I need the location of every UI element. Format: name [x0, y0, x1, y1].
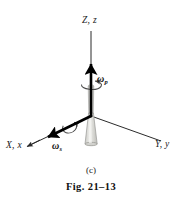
spin-vector-shaft — [48, 116, 91, 137]
omega-subscript-s: s — [59, 145, 62, 152]
spin-vector-label: ωs — [52, 140, 62, 151]
axis-line-y — [91, 116, 161, 141]
spin-vector — [48, 116, 91, 137]
axis-arrow-x — [27, 140, 40, 147]
axis-label-x: X, x — [6, 140, 22, 150]
axis-label-z: Z, z — [82, 15, 97, 25]
figure-number-caption: Fig. 21–13 — [0, 181, 182, 192]
axis-label-y: Y, y — [155, 139, 170, 149]
origin-point — [90, 115, 93, 118]
figure-part-label: (c) — [0, 165, 182, 175]
omega-subscript-p: p — [104, 78, 107, 85]
figure-container: Z, z X, x Y, y ωp ωs (c) Fig. 21–13 — [0, 0, 182, 197]
precession-vector-label: ωp — [97, 73, 107, 84]
